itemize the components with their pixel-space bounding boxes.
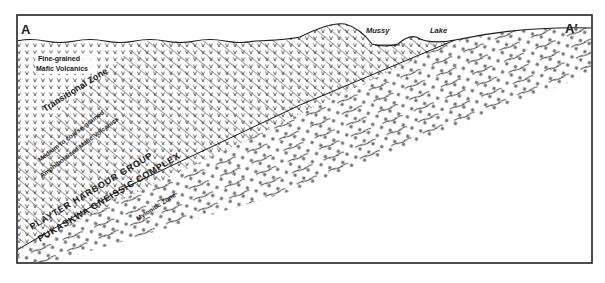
unit-label-fine-volcanics-2: Mafic Volcanics xyxy=(36,65,88,72)
lake-label-lake: Lake xyxy=(430,26,447,35)
lake-label-mussy: Mussy xyxy=(366,26,390,35)
section-label-a-prime: A′ xyxy=(565,21,578,36)
cross-section-diagram: A A′ Mussy Lake Fine-grained Mafic Volca… xyxy=(0,0,605,283)
unit-label-fine-volcanics-1: Fine-grained xyxy=(38,55,80,63)
section-label-a: A xyxy=(21,22,31,37)
